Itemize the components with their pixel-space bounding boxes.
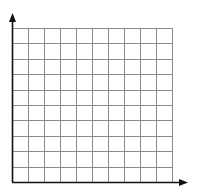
arrow-up-icon	[9, 13, 16, 22]
arrow-right-icon	[179, 179, 188, 186]
coordinate-grid	[0, 0, 197, 192]
grid-lines	[12, 28, 173, 182]
